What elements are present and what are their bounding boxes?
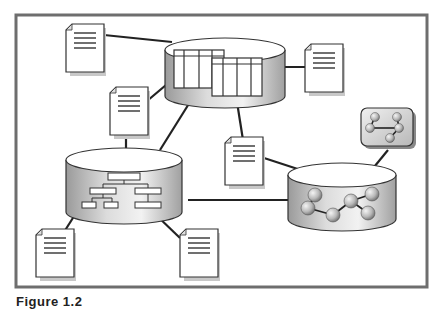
database-hierarchy [66,148,182,224]
document-icon [66,24,106,76]
document-icon [110,87,150,139]
document-icon [305,44,345,96]
document-icon [36,229,76,281]
document-icon [225,137,265,189]
database-tables [165,38,285,108]
document-icon [180,229,220,281]
graph-card [361,108,416,149]
database-graph [288,163,396,231]
figure-caption: Figure 1.2 [16,294,82,309]
